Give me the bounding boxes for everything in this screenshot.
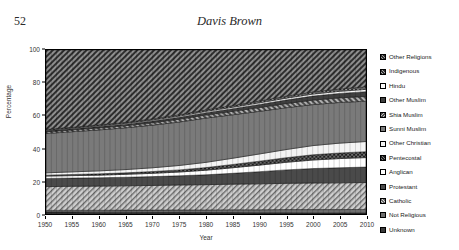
stacked-area-chart-figure: Percentage 020406080100 [0, 40, 459, 250]
legend-item-label: Protestant [389, 184, 417, 190]
x-tick-label: 1955 [65, 221, 79, 228]
legend-item[interactable]: Other Religions [380, 50, 459, 64]
x-tick-mark [152, 216, 153, 219]
y-tick-label: 40 [33, 145, 40, 152]
x-tick-label: 2010 [360, 221, 374, 228]
x-tick-label: 1960 [91, 221, 105, 228]
x-tick-label: 1975 [172, 221, 186, 228]
legend-swatch-icon [380, 155, 386, 161]
x-tick-label: 1950 [38, 221, 52, 228]
legend-item[interactable]: Anglican [380, 165, 459, 179]
legend-item[interactable]: Protestant [380, 180, 459, 194]
legend-item[interactable]: Other Muslim [380, 93, 459, 107]
legend-item[interactable]: Sunni Muslim [380, 122, 459, 136]
legend-item-label: Unknown [389, 227, 415, 233]
x-tick-mark [72, 216, 73, 219]
x-tick-mark [99, 216, 100, 219]
x-tick-mark [206, 216, 207, 219]
legend-item[interactable]: Other Christian [380, 136, 459, 150]
legend-item[interactable]: Shia Muslim [380, 108, 459, 122]
running-head: Davis Brown [0, 14, 459, 29]
x-tick-label: 2005 [333, 221, 347, 228]
y-tick-label: 60 [33, 112, 40, 119]
x-tick-mark [260, 216, 261, 219]
legend-swatch-icon [380, 112, 386, 118]
x-tick-mark [126, 216, 127, 219]
legend-item-label: Shia Muslim [389, 112, 423, 118]
legend-swatch-icon [380, 212, 386, 218]
x-tick-label: 1985 [226, 221, 240, 228]
x-tick-mark [45, 216, 46, 219]
legend-item[interactable]: Hindu [380, 79, 459, 93]
y-axis-title: Percentage [5, 72, 12, 132]
legend-item-label: Not Religious [389, 212, 426, 218]
legend-swatch-icon [380, 184, 386, 190]
legend-swatch-icon [380, 126, 386, 132]
legend-swatch-icon [380, 69, 386, 75]
legend-swatch-icon [380, 198, 386, 204]
x-tick-mark [179, 216, 180, 219]
legend-item[interactable]: Indigenous [380, 64, 459, 78]
legend-item[interactable]: Catholic [380, 194, 459, 208]
legend-item-label: Other Muslim [389, 97, 426, 103]
plot-area [45, 49, 367, 215]
chart-legend: Other ReligionsIndigenousHinduOther Musl… [380, 50, 459, 237]
x-axis: Year 19501955196019651970197519801985199… [45, 216, 367, 250]
legend-item-label: Other Religions [389, 54, 432, 60]
y-tick-label: 80 [33, 79, 40, 86]
legend-swatch-icon [380, 54, 386, 60]
legend-swatch-icon [380, 141, 386, 147]
x-tick-label: 1990 [252, 221, 266, 228]
legend-item-label: Catholic [389, 198, 411, 204]
legend-swatch-icon [380, 227, 386, 233]
y-axis: Percentage 020406080100 [0, 40, 45, 225]
legend-item-label: Pentecostal [389, 155, 421, 161]
x-tick-label: 2000 [306, 221, 320, 228]
x-axis-title: Year [45, 234, 367, 241]
legend-item-label: Sunni Muslim [389, 126, 426, 132]
x-tick-label: 1970 [145, 221, 159, 228]
x-tick-mark [287, 216, 288, 219]
y-tick-label: 20 [33, 178, 40, 185]
x-tick-mark [233, 216, 234, 219]
y-tick-label: 100 [29, 46, 40, 53]
legend-item-label: Hindu [389, 83, 405, 89]
column-separators [46, 50, 366, 214]
x-tick-label: 1995 [279, 221, 293, 228]
legend-item[interactable]: Not Religious [380, 208, 459, 222]
legend-swatch-icon [380, 97, 386, 103]
x-tick-label: 1965 [118, 221, 132, 228]
legend-item-label: Anglican [389, 169, 413, 175]
legend-swatch-icon [380, 169, 386, 175]
x-tick-mark [313, 216, 314, 219]
legend-swatch-icon [380, 83, 386, 89]
legend-item[interactable]: Pentecostal [380, 151, 459, 165]
y-tick-label: 0 [36, 212, 40, 219]
plot-svg [46, 50, 366, 214]
x-tick-mark [340, 216, 341, 219]
legend-item-label: Other Christian [389, 140, 431, 146]
page-header: 52 Davis Brown [0, 0, 459, 40]
x-tick-mark [367, 216, 368, 219]
x-tick-label: 1980 [199, 221, 213, 228]
legend-item[interactable]: Unknown [380, 223, 459, 237]
legend-item-label: Indigenous [389, 68, 419, 74]
